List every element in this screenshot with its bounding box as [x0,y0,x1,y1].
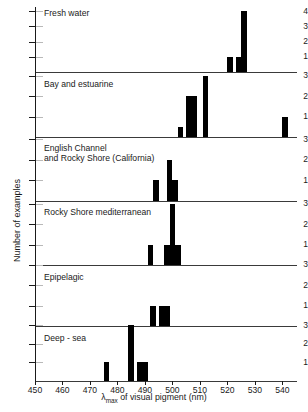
panel-baseline [35,201,297,202]
histogram-bar [153,180,159,201]
y-tick-label: 2 [282,37,308,46]
y-tick-label: 4 [282,7,308,16]
panel-y-axis [35,7,36,72]
y-tick-stub [36,11,43,12]
y-tick-stub [36,265,43,266]
y-tick-stub [36,117,43,118]
histogram-bar [241,11,247,72]
histogram-bar [164,306,170,327]
y-tick [29,362,35,363]
y-tick-stub [36,362,43,363]
y-tick-label: 1 [282,52,308,61]
y-tick [29,306,35,307]
y-tick-label: 2 [282,155,308,164]
y-tick-label: 3 [282,199,308,208]
y-tick-stub [36,42,43,43]
histogram-bar [142,362,148,381]
y-tick [29,265,35,266]
y-tick-label: 1 [282,301,308,310]
y-tick-label: 1 [282,240,308,249]
y-tick-label: 2 [282,92,308,101]
y-tick [29,285,35,286]
y-tick [29,245,35,246]
y-tick-label: 3 [282,71,308,80]
panel-y-axis [35,135,36,201]
panel-y-axis [35,200,36,266]
y-tick-label: 2 [282,281,308,290]
y-tick-label: 1 [282,358,308,367]
y-tick [29,76,35,77]
histogram-bar [150,306,156,327]
histogram-bar [192,96,198,137]
histogram-bar [104,362,110,381]
panel-title: Bay and estuarine [44,79,113,89]
y-tick [29,180,35,181]
y-tick [29,224,35,225]
y-tick [29,42,35,43]
panel-title: Fresh water [44,8,89,18]
figure-container: 1234Fresh water123Bay and estuarine123En… [0,0,308,412]
panel-baseline [35,72,297,73]
y-tick-stub [36,96,43,97]
histogram-bar [172,180,178,201]
y-tick-label: 2 [282,339,308,348]
y-tick-label: 1 [282,176,308,185]
y-tick-stub [36,180,43,181]
y-tick-label: 3 [282,22,308,31]
y-tick-stub [36,224,43,225]
panel-baseline [35,137,297,138]
lambda-subscript: max [106,397,118,404]
panel-title-line-2: and Rocky Shore (California) [44,153,154,163]
x-axis-title: λmax of visual pigment (nm) [0,392,308,404]
panel-baseline [35,326,297,327]
x-axis-title-rest: of visual pigment (nm) [118,392,207,402]
y-tick-stub [36,26,43,27]
y-tick [29,117,35,118]
histogram-bar [128,325,134,381]
y-tick-label: 3 [282,321,308,330]
y-tick [29,344,35,345]
y-axis-title: Number of examples [12,179,22,262]
y-tick [29,204,35,205]
y-tick [29,160,35,161]
y-tick [29,11,35,12]
y-tick-stub [36,344,43,345]
y-tick [29,96,35,97]
panel-title: English Channeland Rocky Shore (Californ… [44,143,154,163]
panel-baseline [35,381,297,382]
histogram-bar [178,127,184,137]
y-tick-stub [36,57,43,58]
histogram-bar [148,245,154,266]
panel-y-axis [35,321,36,381]
panel-y-axis [35,72,36,138]
histogram-bar [227,57,233,72]
panel-title: Epipelagic [44,272,84,282]
panel-y-axis [35,261,36,327]
panel-baseline [35,265,297,266]
panel-title: Deep - sea [44,333,86,343]
histogram-bar [175,245,181,266]
panel-title: Rocky Shore mediterranean [44,207,151,217]
y-tick [29,139,35,140]
panel-title-line-1: English Channel [44,143,154,153]
y-tick [29,26,35,27]
y-tick-stub [36,245,43,246]
y-tick-stub [36,306,43,307]
y-tick-label: 2 [282,220,308,229]
y-tick-stub [36,285,43,286]
y-tick-stub [36,204,43,205]
y-tick [29,57,35,58]
y-tick-label: 3 [282,135,308,144]
y-tick-stub [36,160,43,161]
y-tick-label: 3 [282,260,308,269]
y-tick-stub [36,139,43,140]
histogram-bar [203,76,209,138]
y-tick-stub [36,325,43,326]
y-tick [29,325,35,326]
y-tick-stub [36,76,43,77]
